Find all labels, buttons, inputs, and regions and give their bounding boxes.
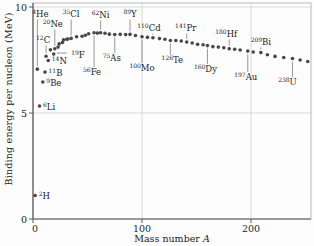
data-point: [190, 41, 194, 45]
data-point: [57, 42, 61, 46]
data-point: [80, 34, 84, 38]
y-axis-title: Binding energy per nucleon (MeV): [3, 26, 14, 186]
isotope-label: 238U: [278, 76, 297, 87]
data-point: [227, 47, 231, 51]
isotope-label: 89Y: [123, 8, 137, 19]
data-point: [92, 31, 96, 35]
isotope-label: 9Be: [46, 77, 61, 88]
data-point: [259, 51, 263, 55]
data-point: [108, 32, 112, 36]
data-point: [174, 39, 178, 43]
data-point: [238, 48, 242, 52]
isotope-label: 6Li: [43, 101, 55, 112]
x-axis-title-variable: A: [203, 233, 210, 244]
isotope-label: 141Pr: [175, 22, 197, 33]
data-point: [62, 38, 66, 42]
data-point: [206, 44, 210, 48]
x-axis-title: Mass number A: [33, 233, 311, 244]
isotope-label: 11B: [48, 67, 62, 78]
data-point: [33, 194, 37, 198]
data-point: [75, 35, 79, 39]
data-point: [222, 46, 226, 50]
data-point: [196, 43, 200, 47]
data-point: [217, 45, 221, 49]
data-point: [201, 43, 205, 47]
isotope-label: 20Ne: [43, 18, 63, 29]
y-tick-label: 10: [15, 2, 27, 13]
data-point: [96, 31, 100, 35]
data-point: [53, 47, 57, 51]
data-point: [273, 55, 277, 59]
data-point: [99, 31, 103, 35]
isotope-label: 160Dy: [194, 63, 217, 74]
isotope-label: 180Hf: [215, 28, 238, 39]
data-point: [49, 48, 53, 52]
data-point: [41, 80, 45, 84]
plot-border: [33, 3, 311, 219]
data-point: [251, 50, 255, 54]
data-point: [169, 39, 173, 43]
data-point: [38, 104, 42, 108]
data-point: [179, 39, 183, 43]
data-point: [158, 37, 162, 41]
data-point: [103, 32, 107, 36]
data-point: [128, 33, 132, 37]
isotope-label: 56Fe: [83, 66, 101, 77]
isotope-label: 62Ni: [92, 9, 110, 20]
isotope-label: 75As: [103, 52, 121, 63]
data-point: [66, 37, 70, 41]
isotope-label: 100Mo: [129, 62, 154, 73]
isotope-label: 126Te: [162, 54, 184, 65]
data-point: [140, 35, 144, 39]
data-point: [124, 33, 128, 37]
data-point: [146, 36, 150, 40]
isotope-label: 209Bi: [251, 36, 272, 47]
binding-energy-curve-figure: 051001002002H4He6Li9Be11B12C14N19F20Ne35…: [0, 0, 314, 246]
isotope-label: 14N: [52, 55, 68, 66]
data-point: [185, 40, 189, 44]
data-point: [87, 32, 91, 36]
data-point: [291, 57, 295, 61]
data-point: [134, 34, 138, 38]
isotope-label: 35Cl: [63, 8, 80, 19]
data-point: [266, 53, 270, 57]
data-point: [69, 37, 73, 41]
isotope-label: 110Cd: [137, 22, 161, 33]
isotope-label: 2H: [39, 190, 50, 201]
data-point: [36, 67, 40, 71]
data-point: [151, 36, 155, 40]
plot-area: 051001002002H4He6Li9Be11B12C14N19F20Ne35…: [0, 0, 314, 246]
data-point: [46, 59, 50, 63]
data-point: [43, 70, 47, 74]
x-axis-title-text: Mass number: [134, 233, 200, 244]
isotope-label: 197Au: [234, 71, 258, 82]
y-tick-label: 0: [21, 214, 27, 225]
y-tick-label: 5: [21, 108, 27, 119]
data-point: [84, 33, 88, 37]
data-point: [282, 56, 286, 60]
data-point: [306, 60, 310, 64]
isotope-label: 12C: [36, 34, 50, 45]
data-point: [44, 54, 48, 58]
isotope-label: 19F: [71, 49, 85, 60]
data-point: [56, 45, 60, 49]
data-point: [233, 47, 237, 51]
data-point: [298, 58, 302, 62]
data-point: [246, 49, 250, 53]
data-point: [113, 33, 117, 37]
data-point: [163, 37, 167, 41]
data-point: [118, 33, 122, 37]
data-point: [211, 45, 215, 49]
